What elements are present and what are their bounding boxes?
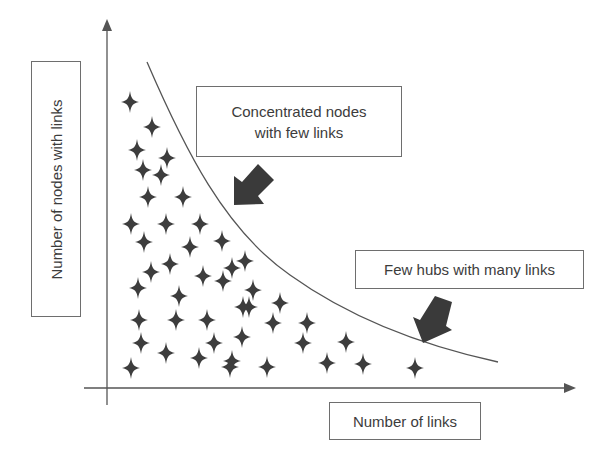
- four-point-star-icon: [142, 261, 160, 283]
- four-point-star-icon: [258, 356, 276, 378]
- diagram-canvas: [0, 0, 609, 468]
- four-point-star-icon: [214, 270, 232, 292]
- four-point-star-icon: [167, 309, 185, 331]
- four-point-star-icon: [194, 265, 212, 287]
- four-point-star-icon: [354, 353, 372, 375]
- four-point-star-icon: [170, 285, 188, 307]
- four-point-star-icon: [337, 331, 355, 353]
- four-point-star-icon: [191, 213, 209, 235]
- four-point-star-icon: [158, 147, 176, 169]
- four-point-star-icon: [205, 332, 223, 354]
- four-point-star-icon: [134, 159, 152, 181]
- four-point-star-icon: [174, 186, 192, 208]
- four-point-star-icon: [264, 312, 282, 334]
- four-point-star-icon: [181, 236, 199, 258]
- four-point-star-icon: [132, 332, 150, 354]
- four-point-star-icon: [122, 357, 140, 379]
- annotation-concentrated-nodes: Concentrated nodes with few links: [196, 86, 402, 157]
- annotation-concentrated-line1: Concentrated nodes: [231, 101, 366, 122]
- annotation-few-hubs: Few hubs with many links: [355, 250, 584, 289]
- annotation-concentrated-line2: with few links: [231, 122, 366, 143]
- hubs-arrow-icon: [413, 296, 452, 343]
- four-point-star-icon: [198, 309, 216, 331]
- four-point-star-icon: [213, 230, 231, 252]
- four-point-star-icon: [161, 253, 179, 275]
- four-point-star-icon: [122, 213, 140, 235]
- annotation-few-hubs-text: Few hubs with many links: [384, 259, 555, 280]
- four-point-star-icon: [223, 257, 241, 279]
- y-axis-label: Number of nodes with links: [46, 99, 67, 279]
- four-point-star-icon: [129, 277, 147, 299]
- four-point-star-icon: [128, 139, 146, 161]
- four-point-star-icon: [135, 231, 153, 253]
- x-axis-arrowhead-icon: [564, 383, 576, 393]
- four-point-star-icon: [298, 312, 316, 334]
- four-point-star-icon: [318, 352, 336, 374]
- four-point-star-icon: [121, 91, 139, 113]
- four-point-star-icon: [236, 250, 254, 272]
- four-point-star-icon: [157, 213, 175, 235]
- four-point-star-icon: [294, 332, 312, 354]
- four-point-star-icon: [271, 292, 289, 314]
- concentrated-arrow-icon: [234, 164, 274, 205]
- y-axis: [102, 19, 112, 405]
- x-axis: [84, 383, 576, 393]
- four-point-star-icon: [139, 186, 157, 208]
- x-axis-label: Number of links: [353, 411, 457, 432]
- y-axis-label-box: Number of nodes with links: [31, 61, 81, 317]
- four-point-star-icon: [143, 116, 161, 138]
- four-point-star-icon: [406, 357, 424, 379]
- four-point-star-icon: [157, 342, 175, 364]
- four-point-star-icon: [244, 279, 262, 301]
- four-point-star-icon: [152, 164, 170, 186]
- four-point-star-icon: [233, 326, 251, 348]
- four-point-star-icon: [190, 347, 208, 369]
- y-axis-arrowhead-icon: [102, 19, 112, 31]
- four-point-star-icon: [130, 309, 148, 331]
- x-axis-label-box: Number of links: [329, 402, 481, 440]
